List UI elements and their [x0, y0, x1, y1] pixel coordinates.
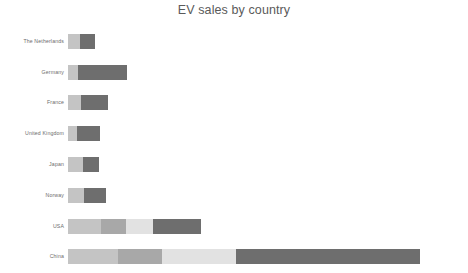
bar-track — [68, 26, 468, 57]
category-label: China — [0, 253, 68, 260]
bar-segment[interactable] — [68, 249, 118, 264]
stacked-bar[interactable] — [68, 219, 201, 234]
stacked-bar[interactable] — [68, 249, 420, 264]
bar-row: China — [0, 242, 468, 273]
stacked-bar[interactable] — [68, 65, 127, 80]
plot-area: The NetherlandsGermanyFranceUnited Kingd… — [0, 26, 468, 273]
bar-segment[interactable] — [68, 157, 83, 172]
bar-segment[interactable] — [236, 249, 420, 264]
bar-segment[interactable] — [126, 219, 153, 234]
bar-segment[interactable] — [68, 188, 84, 203]
bar-segment[interactable] — [80, 34, 95, 49]
stacked-bar[interactable] — [68, 126, 100, 141]
stacked-bar[interactable] — [68, 34, 95, 49]
category-label: France — [0, 99, 68, 106]
bar-segment[interactable] — [81, 95, 108, 110]
bar-segment[interactable] — [78, 65, 127, 80]
bar-track — [68, 242, 468, 273]
bar-track — [68, 57, 468, 88]
bar-segment[interactable] — [68, 95, 81, 110]
bar-track — [68, 180, 468, 211]
category-label: USA — [0, 223, 68, 230]
bar-track — [68, 211, 468, 242]
bar-row: Germany — [0, 57, 468, 88]
bar-row: USA — [0, 211, 468, 242]
category-label: Japan — [0, 161, 68, 168]
category-label: The Netherlands — [0, 38, 68, 45]
bar-segment[interactable] — [68, 219, 101, 234]
category-label: Germany — [0, 69, 68, 76]
chart-title: EV sales by country — [0, 2, 468, 18]
bar-segment[interactable] — [68, 126, 77, 141]
bar-row: The Netherlands — [0, 26, 468, 57]
bar-row: Norway — [0, 180, 468, 211]
stacked-bar[interactable] — [68, 188, 106, 203]
bar-segment[interactable] — [101, 219, 126, 234]
stacked-bar[interactable] — [68, 157, 99, 172]
bar-row: France — [0, 88, 468, 119]
bar-segment[interactable] — [77, 126, 100, 141]
chart-container: EV sales by country The NetherlandsGerma… — [0, 0, 468, 273]
bar-row: United Kingdom — [0, 118, 468, 149]
category-label: Norway — [0, 192, 68, 199]
category-label: United Kingdom — [0, 130, 68, 137]
bar-segment[interactable] — [162, 249, 236, 264]
stacked-bar[interactable] — [68, 95, 108, 110]
bar-segment[interactable] — [153, 219, 201, 234]
bar-segment[interactable] — [68, 65, 78, 80]
bar-track — [68, 118, 468, 149]
bar-track — [68, 88, 468, 119]
bar-track — [68, 149, 468, 180]
bar-row: Japan — [0, 149, 468, 180]
bar-segment[interactable] — [83, 157, 99, 172]
bar-segment[interactable] — [118, 249, 162, 264]
bar-segment[interactable] — [84, 188, 106, 203]
bar-segment[interactable] — [68, 34, 80, 49]
